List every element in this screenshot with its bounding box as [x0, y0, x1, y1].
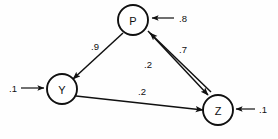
path-diagram-canvas: .9 .2 .7 .2 .8 .1 .1 [0, 0, 278, 139]
edge-y-to-z-line [76, 96, 203, 110]
node-z[interactable]: Z [203, 95, 233, 125]
path-diagram-svg: .9 .2 .7 .2 .8 .1 .1 [0, 0, 278, 139]
node-z-label: Z [215, 105, 222, 117]
exogenous-input-y-weight: .1 [9, 83, 17, 94]
exogenous-input-z-weight: .1 [259, 104, 267, 115]
node-y-label: Y [58, 84, 66, 96]
exogenous-input-p: .8 [152, 13, 187, 24]
node-p-label: P [129, 15, 136, 27]
edge-p-to-z-weight: .7 [179, 44, 187, 55]
edge-z-to-p-line [150, 33, 211, 92]
edge-p-to-y-weight: .9 [91, 41, 99, 52]
exogenous-input-p-weight: .8 [179, 13, 187, 24]
edge-y-to-z-weight: .2 [138, 86, 146, 97]
exogenous-input-z: .1 [236, 104, 267, 115]
edge-y-to-z: .2 [76, 86, 203, 111]
node-y[interactable]: Y [47, 74, 77, 104]
node-p[interactable]: P [118, 5, 148, 35]
edge-p-to-y: .9 [73, 33, 123, 79]
exogenous-input-y: .1 [9, 83, 44, 94]
edge-z-to-p-weight: .2 [144, 59, 152, 70]
